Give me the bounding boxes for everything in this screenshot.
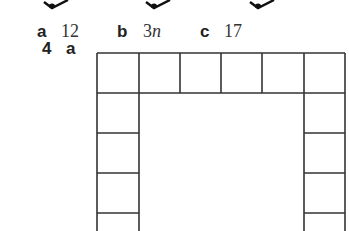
grid-lines [97,53,345,231]
square-border-diagram [0,0,349,231]
